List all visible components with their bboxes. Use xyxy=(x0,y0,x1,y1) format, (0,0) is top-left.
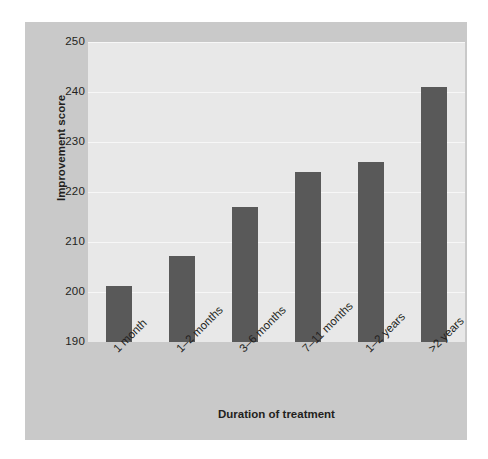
gridline xyxy=(88,242,465,243)
y-axis-tick-label: 200 xyxy=(51,286,85,298)
plot-area xyxy=(88,42,465,342)
gridline xyxy=(88,292,465,293)
gridline xyxy=(88,92,465,93)
y-axis-ticks: 190200210220230240250 xyxy=(47,42,85,342)
chart-panel: Improvement score 190200210220230240250 … xyxy=(25,22,467,440)
gridline xyxy=(88,42,465,43)
gridline xyxy=(88,192,465,193)
y-axis-tick-label: 220 xyxy=(51,186,85,198)
bar xyxy=(232,207,258,342)
y-axis-tick-label: 250 xyxy=(51,36,85,48)
bar xyxy=(295,172,321,342)
y-axis-tick-label: 240 xyxy=(51,86,85,98)
figure-canvas: Improvement score 190200210220230240250 … xyxy=(0,0,488,459)
bar xyxy=(421,87,447,342)
x-axis-ticks: 1 month1–2 months3–6 months7–11 months1–… xyxy=(88,346,465,416)
gridline xyxy=(88,142,465,143)
y-axis-tick-label: 210 xyxy=(51,236,85,248)
y-axis-tick-label: 190 xyxy=(51,336,85,348)
x-axis-title: Duration of treatment xyxy=(88,408,465,420)
y-axis-tick-label: 230 xyxy=(51,136,85,148)
bar xyxy=(358,162,384,342)
